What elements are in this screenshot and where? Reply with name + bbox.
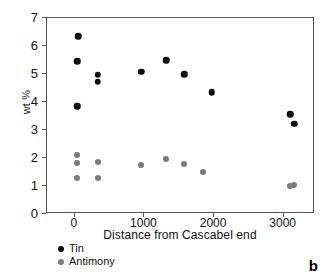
legend-item: Tin bbox=[58, 242, 115, 255]
data-point-tin bbox=[163, 57, 170, 64]
data-point-tin bbox=[75, 33, 82, 40]
data-point-antimony bbox=[291, 182, 297, 188]
y-axis-title: wt % bbox=[20, 72, 32, 132]
data-point-antimony bbox=[163, 156, 169, 162]
data-point-tin bbox=[94, 72, 101, 79]
data-point-tin bbox=[287, 111, 294, 118]
data-point-antimony bbox=[74, 175, 80, 181]
panel-label: b bbox=[309, 257, 318, 274]
data-point-tin bbox=[181, 71, 188, 78]
data-point-antimony bbox=[95, 159, 101, 165]
data-point-tin bbox=[291, 121, 298, 128]
data-point-antimony bbox=[138, 162, 144, 168]
data-point-antimony bbox=[95, 175, 101, 181]
data-point-tin bbox=[74, 58, 81, 65]
data-point-tin bbox=[138, 68, 145, 75]
chart-legend: TinAntimony bbox=[58, 242, 115, 268]
data-point-tin bbox=[74, 103, 81, 110]
legend-item-label: Tin bbox=[69, 242, 84, 255]
x-axis-title: Distance from Cascabel end bbox=[46, 228, 314, 242]
data-point-antimony bbox=[74, 160, 80, 166]
data-point-antimony bbox=[181, 161, 187, 167]
legend-marker-icon bbox=[58, 259, 64, 265]
legend-item: Antimony bbox=[58, 255, 115, 268]
data-point-tin bbox=[208, 89, 215, 96]
data-point-antimony bbox=[74, 152, 80, 158]
legend-marker-icon bbox=[58, 246, 64, 252]
legend-item-label: Antimony bbox=[69, 255, 115, 268]
data-point-tin bbox=[94, 79, 101, 86]
data-point-antimony bbox=[200, 169, 206, 175]
scatter-chart-figure: 01234567 0100020003000 wt % Distance fro… bbox=[0, 0, 326, 278]
